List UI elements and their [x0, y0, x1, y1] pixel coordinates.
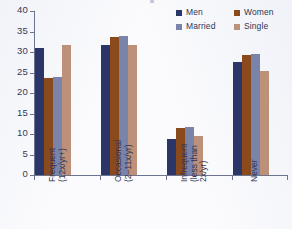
scan-artifact — [150, 0, 154, 3]
bar-men — [35, 48, 44, 175]
y-tick: 10 — [0, 134, 34, 135]
bar-men — [101, 45, 110, 175]
x-category-label-line: (2–11x/yr) — [124, 140, 134, 182]
y-tick: 40 — [0, 11, 34, 12]
y-tick: 20 — [0, 93, 34, 94]
x-tick-mark — [34, 175, 35, 180]
x-category-label: Frequent(12x/yr+) — [48, 148, 67, 182]
y-tick-label: 35 — [17, 26, 28, 36]
x-category-label: Never — [250, 159, 260, 182]
x-tick-mark — [100, 175, 101, 180]
y-tick-label: 5 — [23, 149, 28, 159]
y-tick-label: 15 — [17, 108, 28, 118]
y-tick: 30 — [0, 52, 34, 53]
y-tick-label: 0 — [23, 169, 28, 179]
y-tick: 5 — [0, 155, 34, 156]
y-tick: 35 — [0, 32, 34, 33]
x-category-label: Occasional(2–11x/yr) — [114, 140, 133, 182]
bar-men — [233, 62, 242, 175]
x-tick-mark — [287, 175, 288, 180]
y-tick: 25 — [0, 73, 34, 74]
x-category-label-line: 2x/yr) — [199, 144, 209, 182]
x-tick-mark — [166, 175, 167, 180]
bar-men — [167, 139, 176, 175]
bar-married — [251, 54, 260, 175]
y-tick-label: 40 — [17, 5, 28, 15]
x-category-label: Infrequent(less than2x/yr) — [180, 144, 209, 182]
x-category-label-line: (12x/yr+) — [58, 148, 68, 182]
y-tick-label: 25 — [17, 67, 28, 77]
x-category-label-line: Never — [250, 159, 260, 182]
x-tick-mark — [232, 175, 233, 180]
y-tick: 0 — [0, 175, 34, 176]
bar-single — [260, 71, 269, 175]
y-tick-label: 20 — [17, 87, 28, 97]
bar-group — [233, 11, 269, 175]
bar-women — [242, 55, 251, 175]
y-tick-label: 30 — [17, 46, 28, 56]
grouped-bar-chart: MenWomenMarriedSingle 0510152025303540 F… — [0, 0, 292, 229]
y-tick: 15 — [0, 114, 34, 115]
y-tick-label: 10 — [17, 128, 28, 138]
plot-area — [34, 11, 286, 175]
